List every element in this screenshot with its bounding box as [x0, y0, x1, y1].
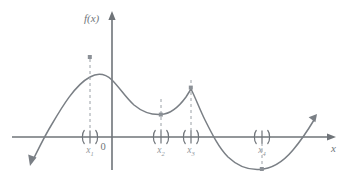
critical-point-label-x1: x1: [85, 145, 93, 157]
critical-point-label-x2: x2: [156, 145, 165, 157]
critical-point-label-x4: x4: [257, 145, 266, 157]
critical-points-figure: f(x) x 0 x1 x2 x3 x4: [0, 0, 345, 182]
curve-path: [33, 74, 314, 169]
critical-point-label-x3: x3: [186, 145, 195, 157]
point-dot-x4: [260, 167, 264, 171]
point-dot-x2: [159, 113, 163, 117]
critical-point-label-x4-sub: 4: [262, 150, 266, 157]
labels-group: f(x) x 0 x1 x2 x3 x4: [84, 12, 336, 157]
graph-canvas: f(x) x 0 x1 x2 x3 x4: [0, 0, 345, 182]
critical-point-label-x3-sub: 3: [190, 150, 195, 157]
dashed-connectors-group: [90, 59, 262, 168]
axes-group: [12, 11, 336, 170]
critical-point-dots-group: [88, 55, 264, 171]
y-axis-arrowhead: [108, 11, 115, 20]
point-dot-x1: [88, 55, 92, 59]
origin-label: 0: [100, 141, 105, 152]
critical-point-label-x2-sub: 2: [161, 150, 165, 157]
critical-point-label-x1-sub: 1: [90, 150, 93, 157]
y-axis-label: f(x): [84, 12, 100, 25]
x-axis-arrowhead: [327, 133, 336, 140]
x-axis-label: x: [330, 142, 336, 154]
point-dot-x3: [189, 86, 193, 90]
function-curve-group: [28, 74, 317, 169]
